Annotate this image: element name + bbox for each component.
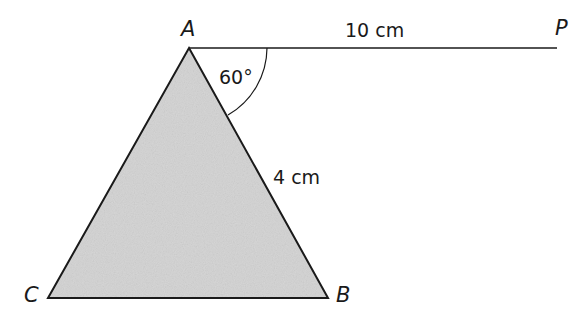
diagram-canvas: A P C B 10 cm 4 cm 60° [0, 0, 587, 310]
length-label-ab: 4 cm [273, 166, 320, 188]
point-label-b: B [336, 283, 350, 307]
point-label-a: A [179, 17, 195, 41]
length-label-ap: 10 cm [345, 19, 404, 41]
angle-label: 60° [219, 66, 253, 88]
point-label-p: P [555, 16, 568, 40]
point-label-c: C [24, 283, 39, 307]
geometry-diagram: A P C B 10 cm 4 cm 60° [0, 0, 587, 310]
